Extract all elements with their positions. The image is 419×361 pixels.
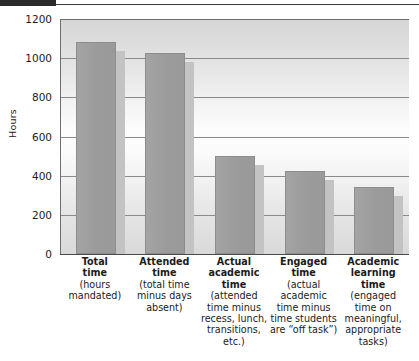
bar-chart-figure: Hours 120010008006004002000 Totaltime(ho… (0, 0, 419, 361)
x-label-heading-line: time (199, 279, 269, 290)
gridline (61, 19, 409, 20)
x-label-detail-line: (total time (130, 279, 200, 290)
x-label-detail-line: etc.) (199, 336, 269, 347)
x-label-detail-line: (engaged (338, 290, 408, 301)
x-label-detail-line: appropriate (338, 324, 408, 335)
x-label-detail-line: absent) (130, 302, 200, 313)
x-axis-category-labels: Totaltime(hoursmandated)Attendedtime(tot… (60, 256, 408, 361)
x-label-heading-line: Actual (199, 256, 269, 267)
plot-area (60, 19, 409, 254)
x-label-attended-time: Attendedtime(total timeminus daysabsent) (130, 256, 200, 313)
x-label-heading-line: time (130, 267, 200, 278)
bar-actual-academic-time[interactable] (215, 156, 255, 254)
x-label-heading-line: time (60, 267, 130, 278)
x-label-detail-line: time students (269, 313, 339, 324)
x-label-detail-line: time minus (199, 302, 269, 313)
x-label-academic-learning-time: Academiclearningtime(engagedtime onmeani… (338, 256, 408, 347)
x-label-detail-line: time minus (269, 302, 339, 313)
y-axis-tick-labels: 120010008006004002000 (0, 0, 56, 361)
bar-attended-time[interactable] (145, 53, 185, 254)
y-tick-label: 800 (32, 91, 52, 103)
x-label-detail-line: academic (269, 290, 339, 301)
y-tick-label: 200 (32, 209, 52, 221)
top-rule-divider (0, 4, 419, 5)
x-label-detail-line: (actual (269, 279, 339, 290)
bar-total-time[interactable] (76, 42, 116, 254)
x-label-heading-line: Academic (338, 256, 408, 267)
x-label-heading-line: time (269, 267, 339, 278)
x-label-detail-line: recess, lunch, (199, 313, 269, 324)
y-tick-label: 600 (32, 131, 52, 143)
y-tick-label: 1000 (25, 52, 52, 64)
x-label-heading-line: Attended (130, 256, 200, 267)
x-axis-baseline (60, 254, 409, 255)
x-label-heading-line: learning (338, 267, 408, 278)
x-label-actual-academic-time: Actualacademictime(attendedtime minusrec… (199, 256, 269, 347)
x-label-heading-line: Total (60, 256, 130, 267)
bar-engaged-time[interactable] (285, 171, 325, 254)
x-label-heading-line: Engaged (269, 256, 339, 267)
x-label-detail-line: tasks) (338, 336, 408, 347)
bar-academic-learning-time[interactable] (354, 187, 394, 254)
x-label-heading-line: time (338, 279, 408, 290)
x-label-detail-line: transitions, (199, 324, 269, 335)
x-label-detail-line: (hours (60, 279, 130, 290)
x-label-detail-line: (attended (199, 290, 269, 301)
x-label-total-time: Totaltime(hoursmandated) (60, 256, 130, 302)
x-label-detail-line: time on (338, 302, 408, 313)
y-tick-label: 1200 (25, 13, 52, 25)
x-label-detail-line: minus days (130, 290, 200, 301)
x-label-heading-line: academic (199, 267, 269, 278)
x-label-engaged-time: Engagedtime(actualacademictime minustime… (269, 256, 339, 336)
x-label-detail-line: meaningful, (338, 313, 408, 324)
y-tick-label: 0 (45, 248, 52, 260)
y-tick-label: 400 (32, 170, 52, 182)
x-label-detail-line: mandated) (60, 290, 130, 301)
x-label-detail-line: are “off task”) (269, 324, 339, 335)
